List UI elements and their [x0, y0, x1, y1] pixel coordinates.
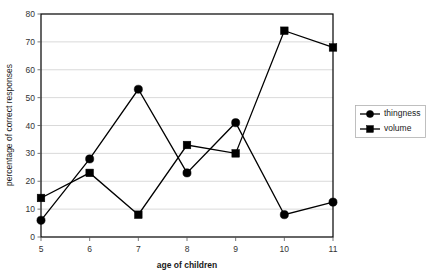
- y-tick-label-40: 40: [26, 121, 36, 131]
- x-tick-label-8: 8: [185, 244, 190, 254]
- data-point-thingness-10: [280, 211, 288, 219]
- legend-label-volume: volume: [384, 123, 412, 133]
- gridlines: [41, 42, 333, 209]
- chart-legend: thingnessvolume: [356, 106, 426, 138]
- y-axis-title: percentage of correct responses: [4, 64, 14, 186]
- x-tick-label-6: 6: [87, 244, 92, 254]
- chart-canvas: 01020304050607080 567891011 percentage o…: [0, 0, 432, 273]
- series-line-thingness: [41, 89, 333, 220]
- y-tick-label-30: 30: [26, 148, 36, 158]
- data-point-volume-11: [329, 44, 337, 52]
- y-tick-label-0: 0: [30, 232, 35, 242]
- y-axis: 01020304050607080: [26, 9, 41, 242]
- data-point-volume-6: [86, 169, 94, 177]
- y-tick-label-80: 80: [26, 9, 36, 19]
- x-tick-label-5: 5: [39, 244, 44, 254]
- data-point-volume-9: [232, 150, 240, 158]
- data-point-volume-5: [37, 194, 45, 202]
- x-tick-label-7: 7: [136, 244, 141, 254]
- x-tick-label-9: 9: [233, 244, 238, 254]
- y-tick-label-20: 20: [26, 176, 36, 186]
- data-point-thingness-7: [134, 85, 142, 93]
- data-point-thingness-8: [183, 169, 191, 177]
- circle-marker-icon: [366, 110, 373, 117]
- line-chart: 01020304050607080 567891011 percentage o…: [0, 0, 432, 273]
- x-axis-title: age of children: [157, 260, 217, 270]
- y-tick-label-50: 50: [26, 93, 36, 103]
- data-point-volume-10: [281, 27, 289, 35]
- data-point-thingness-5: [37, 216, 45, 224]
- data-point-thingness-11: [329, 198, 337, 206]
- y-tick-label-10: 10: [26, 204, 36, 214]
- y-tick-label-60: 60: [26, 65, 36, 75]
- y-tick-label-70: 70: [26, 37, 36, 47]
- x-tick-label-10: 10: [280, 244, 290, 254]
- series-line-volume: [41, 31, 333, 215]
- data-point-volume-7: [135, 211, 143, 219]
- square-marker-icon: [367, 126, 374, 133]
- data-point-thingness-6: [86, 155, 94, 163]
- x-axis: 567891011: [39, 237, 338, 254]
- legend-label-thingness: thingness: [384, 108, 420, 118]
- x-tick-label-11: 11: [329, 244, 338, 254]
- data-point-volume-8: [183, 141, 191, 149]
- data-point-thingness-9: [232, 119, 240, 127]
